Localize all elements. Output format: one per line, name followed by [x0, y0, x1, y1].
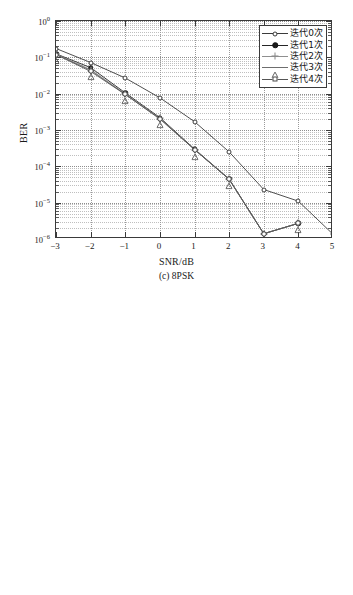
- marker-circle-icon: [123, 75, 128, 80]
- x-axis-tick-label: −1: [112, 241, 136, 251]
- y-axis-tick-label: 10−5: [24, 197, 50, 209]
- marker-plus-icon: [272, 53, 279, 60]
- marker-circle-icon: [273, 31, 278, 36]
- legend-item[interactable]: 迭代2次: [262, 51, 323, 62]
- y-axis-tick-label: 10−4: [24, 160, 50, 172]
- legend-label: 迭代2次: [288, 51, 323, 62]
- x-axis-tick-label: −2: [78, 241, 102, 251]
- y-axis-tick-label: 10−6: [24, 233, 50, 245]
- legend-sample: [262, 51, 288, 62]
- figure-page: 迭代0次迭代1次迭代2次迭代3次迭代4次 BER −3−2−1012345100…: [0, 0, 353, 595]
- legend-sample: [262, 28, 288, 39]
- x-axis-title-8psk: SNR/dB: [0, 256, 353, 267]
- y-axis-tick-label: 10−3: [24, 124, 50, 136]
- x-axis-tick-label: 3: [251, 241, 275, 251]
- x-axis-tick-label: 4: [285, 241, 309, 251]
- x-axis-tick-label: 0: [147, 241, 171, 251]
- legend-label: 迭代4次: [288, 74, 323, 85]
- figure-caption-8psk: (c) 8PSK: [0, 271, 353, 281]
- legend: 迭代0次迭代1次迭代2次迭代3次迭代4次: [259, 25, 327, 88]
- marker-triangle-icon: [272, 64, 279, 71]
- x-axis-tick-label: 2: [216, 241, 240, 251]
- legend-label: 迭代1次: [288, 40, 323, 51]
- marker-circle-icon: [227, 149, 232, 154]
- plot-area-wrapper-8psk: 迭代0次迭代1次迭代2次迭代3次迭代4次 BER −3−2−1012345100…: [0, 0, 353, 260]
- marker-circle-icon: [157, 95, 162, 100]
- figure-8psk: 迭代0次迭代1次迭代2次迭代3次迭代4次 BER −3−2−1012345100…: [0, 0, 353, 297]
- legend-item[interactable]: 迭代1次: [262, 39, 323, 50]
- y-axis-tick-label: 10−1: [24, 51, 50, 63]
- marker-circle-icon: [261, 187, 266, 192]
- marker-circle-icon: [192, 119, 197, 124]
- x-axis-tick-label: 5: [320, 241, 344, 251]
- axes-frame-8psk: 迭代0次迭代1次迭代2次迭代3次迭代4次: [55, 20, 332, 238]
- legend-item[interactable]: 迭代4次: [262, 74, 323, 85]
- legend-item[interactable]: 迭代3次: [262, 62, 323, 73]
- marker-filled-circle-icon: [273, 42, 279, 48]
- x-axis-tick-label: 1: [182, 241, 206, 251]
- y-axis-tick-label: 100: [24, 15, 50, 27]
- legend-item[interactable]: 迭代0次: [262, 28, 323, 39]
- y-axis-tick-label: 10−2: [24, 88, 50, 100]
- marker-circle-icon: [331, 232, 333, 237]
- marker-circle-icon: [296, 199, 301, 204]
- legend-sample: [262, 74, 288, 85]
- legend-sample: [262, 62, 288, 73]
- marker-diamond-icon: [273, 77, 278, 82]
- legend-label: 迭代3次: [288, 62, 323, 73]
- legend-sample: [262, 40, 288, 51]
- legend-label: 迭代0次: [288, 28, 323, 39]
